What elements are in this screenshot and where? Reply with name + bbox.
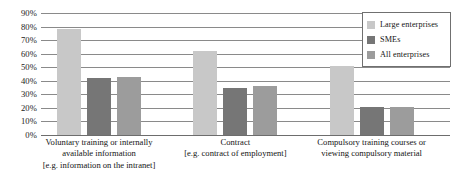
bar: [360, 107, 384, 135]
y-axis-tick-label: 30%: [21, 89, 37, 99]
bar: [390, 107, 414, 135]
category-label-line: available information: [31, 148, 167, 159]
bar: [253, 86, 277, 135]
category-label-line: viewing compulsory material: [304, 148, 440, 159]
x-axis-line: [41, 135, 450, 136]
y-axis-tick-label: 50%: [21, 62, 37, 72]
legend-item: Large enterprises: [367, 17, 445, 32]
x-axis-category-label: Compulsory training courses orviewing co…: [304, 137, 440, 160]
legend-item-label: SMEs: [380, 35, 400, 44]
y-axis-tick-label: 10%: [21, 116, 37, 126]
bar: [87, 78, 111, 135]
category-label-line: Voluntary training or internally: [31, 137, 167, 148]
category-label-line: Compulsory training courses or: [304, 137, 440, 148]
bar-chart: 90%80%70%60%50%40%30%20%10%0% Voluntary …: [0, 0, 455, 192]
y-axis-tick-label: 20%: [21, 103, 37, 113]
y-axis-tick-label: 60%: [21, 49, 37, 59]
legend-item-label: Large enterprises: [380, 20, 438, 29]
category-label-line: Contract: [167, 137, 303, 148]
x-axis-category-label: Contract[e.g. contract of employment]: [167, 137, 303, 160]
bar: [193, 51, 217, 135]
legend-swatch-icon: [367, 21, 375, 29]
y-axis-tick-label: 90%: [21, 8, 37, 18]
legend: Large enterprises SMEs All enterprises: [362, 12, 451, 67]
bar: [330, 66, 354, 135]
category-label-line: [e.g. contract of employment]: [167, 148, 303, 159]
bar: [57, 29, 81, 135]
bar: [117, 77, 141, 135]
legend-item: SMEs: [367, 32, 445, 47]
legend-item: All enterprises: [367, 47, 445, 62]
bar: [223, 88, 247, 135]
y-axis-tick-label: 40%: [21, 76, 37, 86]
y-axis-tick-label: 80%: [21, 22, 37, 32]
legend-swatch-icon: [367, 36, 375, 44]
legend-swatch-icon: [367, 51, 375, 59]
x-axis-category-labels: Voluntary training or internallyavailabl…: [41, 137, 450, 192]
x-axis-category-label: Voluntary training or internallyavailabl…: [31, 137, 167, 171]
category-label-line: [e.g. information on the intranet]: [31, 160, 167, 171]
legend-item-label: All enterprises: [380, 50, 429, 59]
y-axis-tick-label: 70%: [21, 35, 37, 45]
